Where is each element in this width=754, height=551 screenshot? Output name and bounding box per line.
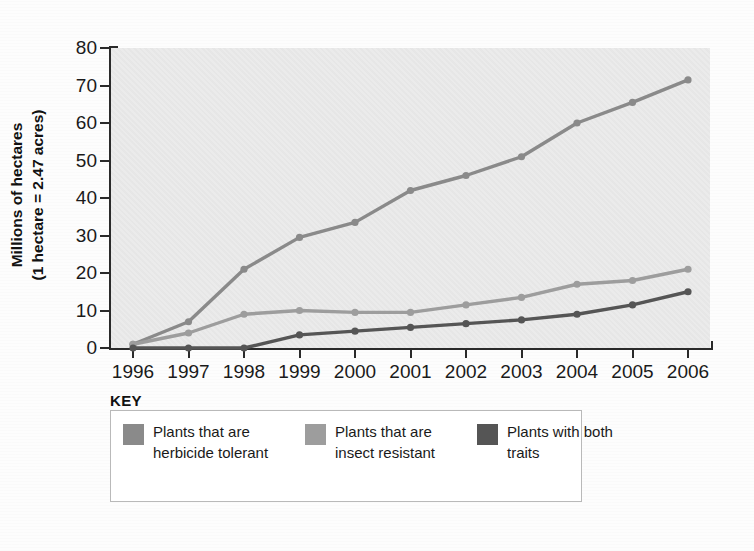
- x-axis-right-cap: [711, 341, 713, 350]
- x-axis-tick: [687, 348, 689, 358]
- y-axis-tick: [100, 347, 111, 349]
- y-axis-tick: [100, 235, 111, 237]
- y-axis-tick: [100, 85, 111, 87]
- x-axis-tick-label: 1998: [214, 362, 274, 381]
- y-axis-tick-label: 20: [55, 263, 97, 282]
- chart-plot-area: [110, 48, 710, 348]
- x-axis-tick-label: 2005: [603, 362, 663, 381]
- x-axis-tick-label: 2001: [381, 362, 441, 381]
- legend-label-insect-resistant: Plants that are insect resistant: [335, 422, 455, 463]
- y-axis-tick: [100, 47, 111, 49]
- y-axis-tick-label: 10: [55, 301, 97, 320]
- legend-swatch-herbicide-tolerant: [123, 424, 144, 445]
- legend-item-both-traits: Plants with both traits: [465, 422, 619, 463]
- x-axis-tick-label: 1996: [103, 362, 163, 381]
- y-axis-tick-label: 60: [55, 113, 97, 132]
- x-axis-tick: [632, 348, 634, 358]
- y-axis-tick: [100, 160, 111, 162]
- legend-item-insect-resistant: Plants that are insect resistant: [293, 422, 465, 463]
- x-axis-tick-label: 2004: [547, 362, 607, 381]
- y-axis-tick: [100, 122, 111, 124]
- x-axis-tick: [354, 348, 356, 358]
- x-axis-tick: [188, 348, 190, 358]
- y-axis-tick: [100, 310, 111, 312]
- legend-title: KEY: [110, 392, 142, 409]
- legend-label-herbicide-tolerant: Plants that are herbicide tolerant: [153, 422, 273, 463]
- y-axis-title-line2: (1 hectare = 2.47 acres): [29, 109, 46, 280]
- y-axis-title: Millions of hectares (1 hectare = 2.47 a…: [0, 40, 56, 350]
- y-axis-tick-label: 70: [55, 76, 97, 95]
- x-axis-tick: [299, 348, 301, 358]
- x-axis-tick: [521, 348, 523, 358]
- y-axis-tick-label: 50: [55, 151, 97, 170]
- y-axis-tick-label: 0: [55, 338, 97, 357]
- x-axis-tick-label: 1997: [159, 362, 219, 381]
- x-axis-tick: [410, 348, 412, 358]
- y-axis-tick: [100, 272, 111, 274]
- x-axis-tick-label: 2003: [492, 362, 552, 381]
- legend-swatch-insect-resistant: [305, 424, 326, 445]
- legend-item-herbicide-tolerant: Plants that are herbicide tolerant: [111, 422, 293, 463]
- x-axis-tick: [576, 348, 578, 358]
- legend-label-both-traits: Plants with both traits: [507, 422, 619, 463]
- y-axis-tick-label: 80: [55, 38, 97, 57]
- x-axis-tick-label: 2002: [436, 362, 496, 381]
- legend-box: Plants that are herbicide tolerant Plant…: [110, 410, 582, 502]
- y-axis-title-line1: Millions of hectares: [8, 123, 25, 268]
- y-axis-tick: [100, 197, 111, 199]
- x-axis-tick: [132, 348, 134, 358]
- y-axis-tick-label: 40: [55, 188, 97, 207]
- x-axis-tick: [243, 348, 245, 358]
- y-axis-tick-label: 30: [55, 226, 97, 245]
- x-axis-tick-label: 1999: [270, 362, 330, 381]
- x-axis-tick-label: 2000: [325, 362, 385, 381]
- x-axis-tick-label: 2006: [658, 362, 718, 381]
- x-axis-tick: [465, 348, 467, 358]
- legend-swatch-both-traits: [477, 424, 498, 445]
